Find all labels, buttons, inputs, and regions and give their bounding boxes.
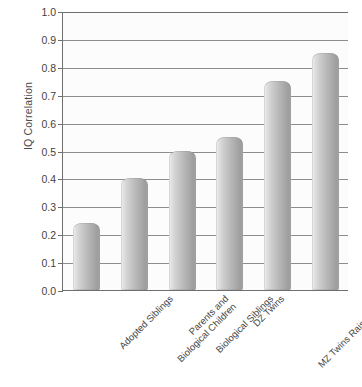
bar (169, 151, 196, 291)
bar (121, 178, 148, 290)
y-axis-tick-label: 1.0 (41, 6, 56, 18)
y-axis-tick-label: 0.6 (41, 118, 56, 130)
bar (73, 223, 100, 290)
bars (63, 12, 348, 290)
x-axis-category-labels: Adopted SiblingsParents andBiological Ch… (62, 293, 362, 387)
y-axis-tick-label: 0.4 (41, 173, 56, 185)
y-axis-tick-label: 0.0 (41, 285, 56, 297)
x-axis-category-label: MZ Twins Raised Apart (315, 293, 362, 370)
x-axis-label-line: MZ Twins Raised Apart (315, 293, 362, 370)
y-axis-tick-label: 0.5 (41, 146, 56, 158)
y-axis-tick-label: 0.2 (41, 229, 56, 241)
plot-area: 0.00.10.20.30.40.50.60.70.80.91.0 (62, 12, 348, 291)
y-axis-title: IQ Correlation (22, 56, 34, 176)
bar (264, 81, 291, 290)
y-axis-tick-label: 0.1 (41, 257, 56, 269)
y-axis-tick-label: 0.3 (41, 201, 56, 213)
y-axis-tick (58, 291, 63, 292)
y-axis-tick-label: 0.9 (41, 34, 56, 46)
y-axis-tick-label: 0.8 (41, 62, 56, 74)
x-axis-category-label: Parents andBiological Children (167, 293, 238, 364)
x-axis-label-line: Adopted Siblings (117, 293, 175, 351)
bar (216, 137, 243, 290)
iq-correlation-bar-chart: IQ Correlation 0.00.10.20.30.40.50.60.70… (0, 0, 362, 387)
x-axis-category-label: Adopted Siblings (117, 293, 175, 351)
y-axis-tick-label: 0.7 (41, 90, 56, 102)
bar (312, 53, 339, 290)
